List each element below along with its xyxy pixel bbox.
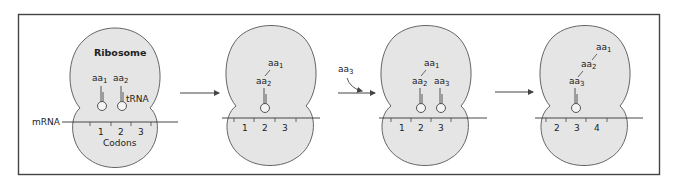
ribosome-shape: [226, 26, 316, 166]
translation-diagram: Ribosome aa1 aa2 tRNA mRNA 1 2 3 Codons: [0, 0, 678, 182]
codon-number: 2: [118, 127, 124, 137]
codon-number: 3: [282, 123, 288, 133]
codon-number: 1: [399, 123, 405, 133]
codon-number: 1: [98, 127, 104, 137]
codon-number: 2: [262, 123, 268, 133]
incoming-amino-acid: aa3: [338, 64, 362, 91]
codon-number: 4: [594, 123, 600, 133]
codon-number: 2: [554, 123, 560, 133]
ribosome-shape: [381, 26, 471, 166]
panel-step-2: aa1 aa2 1 2 3: [222, 26, 320, 166]
codon-number: 1: [242, 123, 248, 133]
incoming-curve-arrow: [347, 78, 362, 91]
ribosome-label: Ribosome: [94, 47, 146, 58]
panel-step-4: aa1 aa2 aa3 2 3 4: [535, 26, 643, 166]
mrna-label: mRNA: [32, 117, 61, 127]
panel-step-3: aa1 aa2 aa3 1 2 3: [379, 26, 487, 166]
trna-label: tRNA: [126, 94, 150, 104]
incoming-amino-acid-label: aa3: [338, 64, 354, 76]
codon-number: 2: [418, 123, 424, 133]
panel-step-1: Ribosome aa1 aa2 tRNA mRNA 1 2 3 Codons: [32, 28, 178, 168]
ribosome-shape: [540, 26, 630, 166]
codon-number: 3: [574, 123, 580, 133]
codon-number: 3: [138, 127, 144, 137]
codon-number: 3: [438, 123, 444, 133]
codons-label: Codons: [103, 138, 137, 148]
